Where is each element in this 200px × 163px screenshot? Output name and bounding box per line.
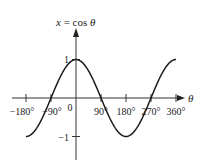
x-tick-labels: −180° −90° 0 90° 180° 270° 360° [10,102,186,117]
x-tick-label: 180° [117,106,136,117]
x-tick-label: 90° [94,106,108,117]
y-tick-label: −1 [58,132,69,143]
y-axis-title-theta: θ [90,16,96,28]
x-tick-label: 360° [167,106,186,117]
x-axis [12,95,185,101]
cosine-chart: −180° −90° 0 90° 180° 270° 360° 1 −1 x =… [0,0,200,163]
y-axis-title: x = cos θ [55,16,96,28]
y-tick-label: 1 [64,54,69,65]
y-axis-title-eq: = cos [61,16,90,28]
y-axis-arrow-icon [73,28,79,37]
x-tick-label: −180° [10,106,35,117]
y-axis [73,28,79,160]
x-axis-title: θ [188,92,194,104]
x-tick-label: 270° [142,106,161,117]
x-tick-label: −90° [42,106,62,117]
x-axis-arrow-icon [177,95,185,101]
x-tick-label: 0 [68,102,73,113]
